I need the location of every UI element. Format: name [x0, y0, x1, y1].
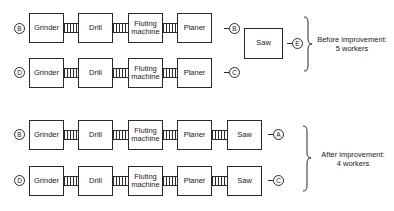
station-label: Drill	[89, 177, 102, 186]
saw-station: Saw	[227, 166, 262, 196]
conveyor	[64, 23, 79, 33]
conveyor	[113, 23, 128, 33]
station-label: Planer	[184, 69, 206, 78]
grinder-station: Grinder	[29, 13, 64, 43]
station-label: Drill	[89, 131, 102, 140]
planer-station: Planer	[177, 120, 212, 150]
station-label: Grinder	[34, 131, 59, 140]
conveyor	[113, 68, 128, 78]
drill-station: Drill	[78, 58, 113, 88]
conveyor	[64, 130, 79, 140]
station-label: Saw	[256, 39, 271, 48]
station-label: Planer	[184, 24, 206, 33]
worker-circle: B	[14, 129, 25, 140]
planer-station: Planer	[177, 166, 212, 196]
grinder-station: Grinder	[29, 166, 64, 196]
conveyor	[163, 130, 178, 140]
station-label: Saw	[237, 131, 252, 140]
station-label: Grinder	[34, 177, 59, 186]
conveyor	[64, 68, 79, 78]
fluting-machine-station: Flutingmachine	[128, 120, 163, 150]
station-label: Planer	[184, 177, 206, 186]
worker-circle: A	[273, 129, 284, 140]
station-label: Drill	[89, 69, 102, 78]
station-label: Grinder	[34, 24, 59, 33]
worker-circle: D	[14, 67, 25, 78]
station-label: Flutingmachine	[131, 65, 159, 82]
grinder-station: Grinder	[29, 58, 64, 88]
station-label: Grinder	[34, 69, 59, 78]
station-label: Drill	[89, 24, 102, 33]
conveyor	[163, 23, 178, 33]
station-label: Flutingmachine	[131, 127, 159, 144]
fluting-machine-station: Flutingmachine	[128, 58, 163, 88]
worker-circle: D	[14, 175, 25, 186]
worker-circle: C	[273, 175, 284, 186]
after-caption: After improvement:4 workers	[312, 150, 394, 168]
conveyor	[212, 176, 227, 186]
brace-icon	[302, 125, 312, 192]
conveyor	[212, 130, 227, 140]
drill-station: Drill	[78, 13, 113, 43]
saw-station: Saw	[227, 120, 262, 150]
station-label: Flutingmachine	[131, 173, 159, 190]
conveyor	[113, 176, 128, 186]
planer-station: Planer	[177, 58, 212, 88]
drill-station: Drill	[78, 166, 113, 196]
worker-circle: B	[14, 23, 25, 34]
planer-station: Planer	[177, 13, 212, 43]
saw-station-shared: Saw	[244, 28, 283, 59]
worker-circle: B	[229, 23, 240, 34]
conveyor	[64, 176, 79, 186]
worker-circle: E	[292, 38, 303, 49]
fluting-machine-station: Flutingmachine	[128, 166, 163, 196]
station-label: Planer	[184, 131, 206, 140]
before-caption: Before improvement:5 workers	[310, 35, 394, 53]
station-label: Saw	[237, 177, 252, 186]
conveyor	[163, 68, 178, 78]
fluting-machine-station: Flutingmachine	[128, 13, 163, 43]
grinder-station: Grinder	[29, 120, 64, 150]
conveyor	[113, 130, 128, 140]
drill-station: Drill	[78, 120, 113, 150]
worker-circle: C	[229, 67, 240, 78]
conveyor	[163, 176, 178, 186]
station-label: Flutingmachine	[131, 20, 159, 37]
